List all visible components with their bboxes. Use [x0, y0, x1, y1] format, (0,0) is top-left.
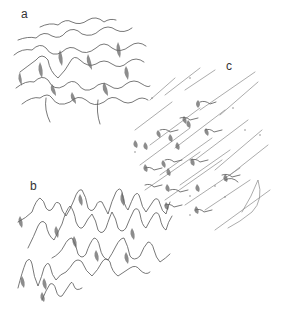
- drawing: [0, 0, 289, 313]
- panel-a-waves: [14, 18, 150, 124]
- wave-illustration: a c b: [0, 0, 289, 313]
- panel-c-streaks: [133, 68, 270, 230]
- panel-b-peaks: [18, 189, 172, 302]
